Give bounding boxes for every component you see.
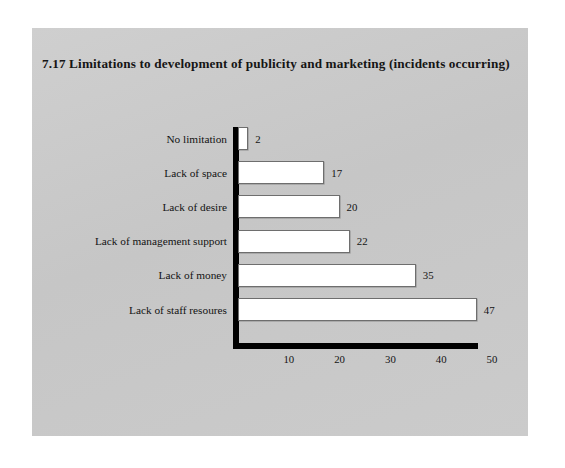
bar xyxy=(238,127,248,150)
bar-row: Lack of money35 xyxy=(32,264,528,287)
bar-row: Lack of management support22 xyxy=(32,230,528,253)
bar-value-label: 17 xyxy=(331,167,342,179)
bar xyxy=(238,298,477,321)
x-axis-line xyxy=(233,343,478,349)
figure-page: 7.17 Limitations to development of publi… xyxy=(0,0,565,468)
bar-value-label: 35 xyxy=(423,269,434,281)
x-tick-label: 10 xyxy=(283,353,294,365)
category-label: Lack of desire xyxy=(162,201,227,213)
bar xyxy=(238,230,350,253)
bar-value-label: 20 xyxy=(347,201,358,213)
bar-value-label: 47 xyxy=(484,304,495,316)
figure-panel: 7.17 Limitations to development of publi… xyxy=(32,28,528,436)
bar-row: No limitation2 xyxy=(32,127,528,150)
category-label: No limitation xyxy=(166,133,227,145)
x-tick-label: 50 xyxy=(487,353,498,365)
x-tick-label: 30 xyxy=(385,353,396,365)
category-label: Lack of management support xyxy=(95,235,227,247)
bar-row: Lack of space17 xyxy=(32,161,528,184)
bar-row: Lack of desire20 xyxy=(32,195,528,218)
bar-value-label: 22 xyxy=(357,235,368,247)
x-tick-label: 20 xyxy=(334,353,345,365)
category-label: Lack of money xyxy=(159,269,227,281)
plot-area: No limitation2Lack of space17Lack of des… xyxy=(32,28,528,436)
category-label: Lack of staff resoures xyxy=(129,304,227,316)
bar xyxy=(238,264,416,287)
bar xyxy=(238,161,324,184)
x-axis-tick-labels: 1020304050 xyxy=(32,353,528,373)
x-tick-label: 40 xyxy=(436,353,447,365)
bar xyxy=(238,195,340,218)
bar-value-label: 2 xyxy=(255,133,260,145)
bar-row: Lack of staff resoures47 xyxy=(32,298,528,321)
category-label: Lack of space xyxy=(164,167,227,179)
